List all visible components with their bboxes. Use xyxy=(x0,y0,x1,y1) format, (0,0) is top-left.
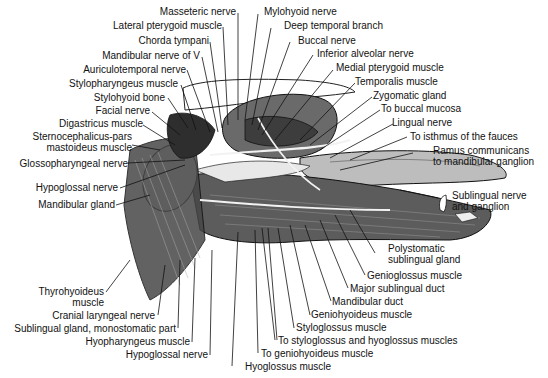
label-to-buccal-mucosa: To buccal mucosa xyxy=(381,103,461,114)
label-zygomatic-gland: Zygomatic gland xyxy=(373,90,446,101)
label-medial-pterygoid-muscle: Medial pterygoid muscle xyxy=(336,62,444,73)
canine-tooth xyxy=(439,195,446,212)
label-auriculotemporal-nerve: Auriculotemporal nerve xyxy=(83,64,186,75)
label-inferior-alveolar-nerve: Inferior alveolar nerve xyxy=(317,48,414,59)
label-styloglossus-muscle: Styloglossus muscle xyxy=(296,322,387,333)
label-stylopharyngeus-muscle: Stylopharyngeus muscle xyxy=(69,78,178,89)
label-mandibular-nerve-of-v: Mandibular nerve of V xyxy=(102,50,200,61)
label-thyrohyoideus-muscle: Thyrohyoideus muscle xyxy=(38,286,104,308)
label-to-geniohyoideus-muscle: To geniohyoideus muscle xyxy=(261,348,373,359)
label-genioglossus-muscle: Genioglossus muscle xyxy=(367,270,462,281)
label-geniohyoideus-muscle: Geniohyoideus muscle xyxy=(311,309,412,320)
label-glossopharyngeal-nerve: Glossopharyngeal nerve xyxy=(20,158,128,169)
label-facial-nerve: Facial nerve xyxy=(96,105,150,116)
label-sternocephalicus: Sternocephalicus-pars mastoideus muscle xyxy=(33,131,133,153)
label-buccal-nerve: Buccal nerve xyxy=(298,35,356,46)
label-stylohyoid-bone: Stylohyoid bone xyxy=(94,92,165,103)
label-deep-temporal-branch: Deep temporal branch xyxy=(284,20,383,31)
label-temporalis-muscle: Temporalis muscle xyxy=(355,76,438,87)
label-mylohyoid-nerve: Mylohyoid nerve xyxy=(264,6,337,17)
stylohyoid-region-shape xyxy=(167,113,215,158)
label-polystomatic-sublingual-gland: Polystomatic sublingual gland xyxy=(388,243,460,265)
label-hyopharyngeus-muscle: Hyopharyngeus muscle xyxy=(86,336,191,347)
label-chorda-tympani: Chorda tympani xyxy=(138,35,209,46)
label-major-sublingual-duct: Major sublingual duct xyxy=(350,283,445,294)
label-lingual-nerve: Lingual nerve xyxy=(392,117,452,128)
label-to-styloglossus-hyoglossus: To styloglossus and hyoglossus muscles xyxy=(278,335,458,346)
label-sublingual-nerve-ganglion: Sublingual nerve and ganglion xyxy=(452,190,527,212)
label-lateral-pterygoid-muscle: Lateral pterygoid muscle xyxy=(113,20,222,31)
label-mandibular-duct: Mandibular duct xyxy=(332,296,403,307)
label-masseteric-nerve: Masseteric nerve xyxy=(160,6,236,17)
anatomy-figure: Masseteric nerve Mylohyoid nerve Lateral… xyxy=(0,0,548,378)
label-to-isthmus-of-fauces: To isthmus of the fauces xyxy=(410,131,518,142)
label-cranial-laryngeal-nerve: Cranial laryngeal nerve xyxy=(52,310,155,321)
label-hyoglossus-muscle: Hyoglossus muscle xyxy=(245,361,331,372)
label-ramus-communicans: Ramus communicans to mandibular ganglion xyxy=(433,145,534,167)
label-hypoglossal-nerve-left: Hypoglossal nerve xyxy=(36,182,118,193)
label-sublingual-gland-monostomatic: Sublingual gland, monostomatic part xyxy=(14,323,176,334)
label-digastricus-muscle: Digastricus muscle xyxy=(59,118,143,129)
label-hypoglossal-nerve-bottom: Hypoglossal nerve xyxy=(126,349,208,360)
label-mandibular-gland: Mandibular gland xyxy=(38,199,115,210)
